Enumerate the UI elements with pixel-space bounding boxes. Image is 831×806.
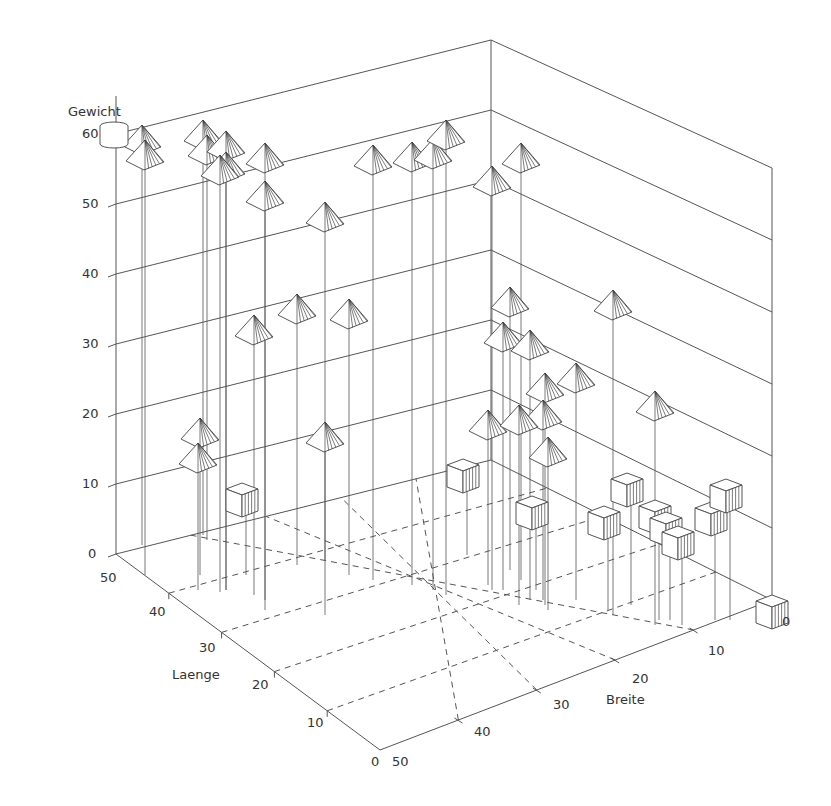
tick-label: 20 (252, 677, 269, 692)
tick-label: 50 (82, 196, 99, 211)
pyramid-marker (181, 418, 219, 448)
z-axis-label: Gewicht (68, 104, 121, 119)
pyramid-marker (246, 181, 284, 211)
pyramid-marker (354, 145, 392, 175)
tick-label: 30 (553, 697, 570, 712)
cube-marker (447, 459, 479, 493)
tick-label: 0 (782, 614, 790, 629)
tick-label: 40 (474, 724, 491, 739)
legend-cylinder-icon (100, 122, 128, 148)
pyramid-marker (636, 391, 674, 421)
tick-label: 0 (88, 546, 96, 561)
tick-label: 10 (708, 643, 725, 658)
tick-label: 60 (82, 126, 99, 141)
tick-label: 40 (149, 604, 166, 619)
pyramid-marker (246, 143, 284, 173)
data-markers (123, 120, 788, 629)
pyramid-marker (529, 437, 567, 467)
pyramid-marker (526, 373, 564, 403)
y-axis-label: Breite (606, 692, 645, 707)
tick-label: 10 (82, 476, 99, 491)
pyramid-marker (594, 290, 632, 320)
pyramid-marker (179, 443, 217, 473)
pyramid-marker (502, 143, 540, 173)
x-axis-label: Laenge (172, 667, 220, 682)
pyramid-marker (235, 315, 273, 345)
tick-label: 30 (82, 336, 99, 351)
tick-label: 20 (82, 406, 99, 421)
cube-marker (611, 473, 643, 507)
tick-label: 40 (82, 266, 99, 281)
pyramid-marker (491, 287, 529, 317)
pyramid-marker (278, 294, 316, 324)
cube-marker (516, 496, 548, 530)
tick-label: 50 (100, 570, 117, 585)
tick-label: 20 (632, 671, 649, 686)
tick-label: 0 (371, 754, 379, 769)
cube-marker (226, 483, 258, 517)
chart-3d-scatter (0, 0, 831, 806)
tick-label: 30 (199, 640, 216, 655)
cube-marker (662, 526, 694, 560)
pyramid-marker (306, 422, 344, 452)
cube-marker (710, 479, 742, 513)
pyramid-marker (306, 202, 344, 232)
pyramid-marker (473, 166, 511, 196)
pyramid-marker (330, 299, 368, 329)
cube-marker (588, 506, 620, 540)
tick-label: 50 (392, 754, 409, 769)
pyramid-marker (511, 330, 549, 360)
tick-label: 10 (307, 715, 324, 730)
